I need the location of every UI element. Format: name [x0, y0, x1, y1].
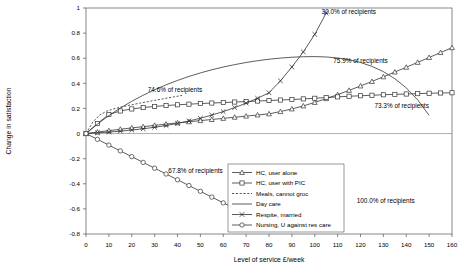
- x-tick-label: 50: [197, 241, 204, 248]
- data-point-square: [427, 91, 431, 95]
- legend-label: HC, user with PIC: [256, 179, 306, 186]
- data-point-circle: [198, 189, 202, 193]
- legend-item-0[interactable]: HC, user alone: [232, 169, 298, 176]
- data-point-square: [404, 92, 408, 96]
- y-tick-label: 0: [77, 130, 81, 137]
- y-tick-label: -0.2: [69, 155, 80, 162]
- data-point-square: [301, 97, 305, 101]
- x-tick-label: 60: [220, 241, 227, 248]
- x-tick-label: 130: [378, 241, 389, 248]
- legend-label: Respite, married: [256, 211, 302, 218]
- annotation-1: 75.9% of recipients: [333, 57, 387, 65]
- x-tick-label: 20: [128, 241, 135, 248]
- x-tick-label: 90: [288, 241, 295, 248]
- y-tick-label: 0.4: [71, 80, 80, 87]
- annotation-5: 100.0% of recipients: [357, 197, 415, 205]
- data-point-circle: [210, 195, 214, 199]
- x-tick-label: 160: [447, 241, 458, 248]
- x-tick-label: 140: [401, 241, 412, 248]
- y-tick-label: 0.2: [71, 105, 80, 112]
- data-point-square: [210, 101, 214, 105]
- data-point-square: [336, 95, 340, 99]
- data-point-circle: [187, 183, 191, 187]
- y-tick-label: -0.6: [69, 205, 80, 212]
- line-chart: -0.8-0.6-0.4-0.200.20.40.60.810102030405…: [0, 0, 461, 273]
- data-point-circle: [240, 223, 244, 227]
- data-point-square: [153, 104, 157, 108]
- data-point-square: [324, 95, 328, 99]
- data-point-circle: [84, 131, 88, 135]
- data-point-square: [187, 102, 191, 106]
- data-point-square: [130, 107, 134, 111]
- x-tick-label: 120: [355, 241, 366, 248]
- x-tick-label: 30: [151, 241, 158, 248]
- y-tick-label: -0.4: [69, 180, 80, 187]
- data-point-circle: [175, 178, 179, 182]
- data-point-circle: [107, 143, 111, 147]
- x-tick-label: 110: [333, 241, 343, 248]
- y-tick-label: 0.8: [71, 29, 80, 36]
- data-point-square: [221, 100, 225, 104]
- data-point-circle: [130, 154, 134, 158]
- data-point-square: [393, 92, 397, 96]
- data-point-square: [233, 100, 237, 104]
- x-tick-label: 10: [105, 241, 112, 248]
- y-tick-label: -0.8: [69, 230, 80, 237]
- data-point-square: [240, 181, 244, 185]
- legend-label: Nursing, U against res care: [256, 221, 332, 228]
- data-point-square: [175, 103, 179, 107]
- data-point-circle: [95, 137, 99, 141]
- data-point-square: [438, 91, 442, 95]
- annotation-3: 73.3% of recipients: [374, 102, 428, 110]
- data-point-circle: [118, 149, 122, 153]
- data-point-square: [381, 93, 385, 97]
- data-point-circle: [141, 160, 145, 164]
- data-point-square: [198, 101, 202, 105]
- chart-container: -0.8-0.6-0.4-0.200.20.40.60.810102030405…: [0, 0, 461, 273]
- legend-label: HC, user alone: [256, 169, 298, 176]
- data-point-square: [347, 94, 351, 98]
- legend-label: Day care: [256, 200, 281, 207]
- y-axis-title: Change in satisfaction: [5, 87, 13, 154]
- legend-label: Meals, cannot groc: [256, 190, 308, 197]
- data-point-square: [313, 96, 317, 100]
- data-point-square: [164, 103, 168, 107]
- data-point-square: [416, 92, 420, 96]
- x-axis-title: Level of service £/week: [234, 256, 305, 263]
- data-point-square: [290, 97, 294, 101]
- annotation-4: 67.8% of recipients: [168, 167, 222, 175]
- data-point-square: [267, 98, 271, 102]
- x-tick-label: 100: [310, 241, 321, 248]
- x-tick-label: 40: [174, 241, 181, 248]
- annotation-2: 74.6% of recipients: [148, 86, 202, 94]
- legend: HC, user aloneHC, user with PICMeals, ca…: [228, 164, 344, 232]
- data-point-square: [450, 91, 454, 95]
- y-tick-label: 1: [77, 4, 81, 11]
- x-tick-label: 80: [266, 241, 273, 248]
- x-tick-label: 0: [84, 241, 88, 248]
- data-point-circle: [152, 166, 156, 170]
- data-point-square: [358, 94, 362, 98]
- data-point-circle: [221, 201, 225, 205]
- y-tick-label: 0.6: [71, 54, 80, 61]
- x-tick-label: 150: [424, 241, 435, 248]
- x-tick-label: 70: [243, 241, 250, 248]
- data-point-square: [278, 98, 282, 102]
- data-point-square: [141, 105, 145, 109]
- annotation-0: 30.0% of recipients: [322, 8, 376, 16]
- data-point-square: [370, 93, 374, 97]
